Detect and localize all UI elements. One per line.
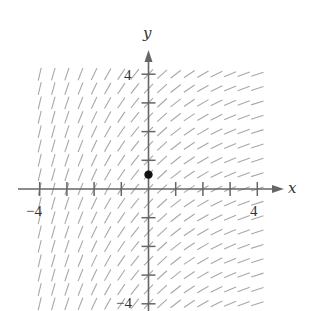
- slope-segment: [197, 71, 208, 78]
- slope-segment: [197, 200, 208, 207]
- slope-segment: [91, 169, 97, 181]
- slope-segment: [105, 198, 111, 209]
- slope-segment: [224, 172, 236, 177]
- slope-segment: [105, 255, 111, 266]
- slope-segment: [118, 241, 125, 252]
- slope-segment: [171, 128, 181, 136]
- slope-segment: [52, 283, 56, 296]
- slope-segment: [224, 201, 236, 206]
- slope-segment: [78, 140, 83, 152]
- y-axis-label: y: [142, 24, 152, 42]
- slope-segment: [251, 287, 263, 291]
- slope-segment: [238, 287, 250, 291]
- slope-segment: [118, 255, 125, 266]
- slope-segment: [38, 297, 41, 310]
- slope-segment: [211, 258, 223, 264]
- slope-segment: [105, 155, 111, 166]
- slope-segment: [105, 69, 111, 80]
- slope-segment: [105, 226, 111, 237]
- slope-segment: [91, 255, 97, 267]
- slope-segment: [131, 127, 139, 137]
- slope-segment: [238, 230, 250, 234]
- slope-segment: [78, 298, 83, 310]
- slope-segment: [91, 83, 97, 95]
- slope-segment: [251, 101, 263, 105]
- slope-segment: [131, 213, 139, 223]
- slope-segment: [65, 140, 69, 152]
- slope-segment: [157, 299, 167, 308]
- slope-segment: [131, 112, 139, 122]
- slope-segment: [65, 255, 69, 267]
- slope-segment: [78, 226, 83, 238]
- slope-segment: [224, 72, 236, 77]
- slope-segment: [78, 255, 83, 267]
- slope-segment: [251, 72, 263, 76]
- slope-segment: [38, 168, 41, 181]
- slope-segment: [52, 111, 56, 124]
- slope-segment: [65, 111, 69, 123]
- slope-segment: [38, 97, 41, 110]
- slope-segment: [52, 68, 56, 81]
- slope-segment: [65, 68, 69, 80]
- slope-segment: [78, 169, 83, 181]
- slope-segment: [197, 229, 208, 236]
- slope-segment: [91, 111, 97, 123]
- slope-segment: [238, 115, 250, 119]
- slope-segment: [52, 97, 56, 110]
- slope-segment: [211, 100, 223, 106]
- slope-segment: [131, 141, 139, 151]
- y-tick-label-min: −4: [116, 295, 132, 311]
- slope-segment: [251, 244, 263, 248]
- slope-segment: [211, 272, 223, 278]
- slope-segment: [118, 284, 125, 295]
- slope-segment: [251, 259, 263, 263]
- slope-segment: [157, 156, 167, 165]
- slope-segment: [224, 301, 236, 306]
- slope-segment: [211, 157, 223, 163]
- slope-segment: [118, 198, 125, 209]
- slope-segment: [131, 98, 139, 108]
- slope-segment: [238, 201, 250, 205]
- slope-segment: [52, 298, 56, 311]
- y-tick-label-max: 4: [124, 67, 132, 83]
- slope-segment: [211, 172, 223, 178]
- slope-segment: [38, 269, 41, 282]
- slope-segment: [157, 142, 167, 151]
- slope-segment: [251, 130, 263, 134]
- slope-segment: [184, 286, 195, 293]
- slope-segment: [238, 259, 250, 263]
- slope-segment: [251, 230, 263, 234]
- slope-segment: [184, 157, 195, 164]
- slope-segment: [65, 82, 69, 94]
- slope-segment: [211, 86, 223, 92]
- slope-segment: [65, 298, 69, 310]
- slope-segment: [224, 215, 236, 220]
- slope-segment: [78, 154, 83, 166]
- slope-segment: [184, 228, 195, 235]
- slope-segment: [91, 298, 97, 310]
- x-axis-label: x: [288, 179, 297, 197]
- slope-segment: [171, 70, 181, 78]
- slope-segment: [118, 126, 125, 137]
- slope-segment: [118, 141, 125, 152]
- slope-segment: [91, 126, 97, 138]
- slope-segment: [211, 114, 223, 120]
- slope-segment: [197, 301, 208, 308]
- slope-segment: [52, 140, 56, 153]
- slope-segment: [224, 129, 236, 134]
- slope-segment: [91, 212, 97, 224]
- slope-segment: [157, 271, 167, 280]
- slope-segment: [238, 215, 250, 219]
- slope-segment: [78, 97, 83, 109]
- slope-segment: [184, 128, 195, 135]
- slope-segment: [52, 211, 56, 224]
- slope-segment: [157, 170, 167, 179]
- slope-segment: [38, 68, 41, 81]
- slope-segment: [91, 269, 97, 281]
- slope-segment: [65, 168, 69, 180]
- slope-segment: [157, 84, 167, 93]
- slope-segment: [105, 269, 111, 280]
- slope-segment: [78, 240, 83, 252]
- slope-segment: [238, 144, 250, 148]
- slope-segment: [211, 129, 223, 135]
